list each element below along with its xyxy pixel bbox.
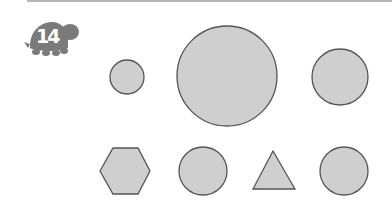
hexagon-shape bbox=[100, 148, 150, 194]
triangle-shape bbox=[253, 151, 295, 189]
circle-shape bbox=[312, 49, 368, 105]
circle-shape bbox=[179, 147, 227, 195]
circle-shape bbox=[110, 60, 144, 94]
shapes-canvas bbox=[0, 0, 392, 211]
circle-shape bbox=[177, 26, 277, 126]
circle-shape bbox=[320, 147, 368, 195]
